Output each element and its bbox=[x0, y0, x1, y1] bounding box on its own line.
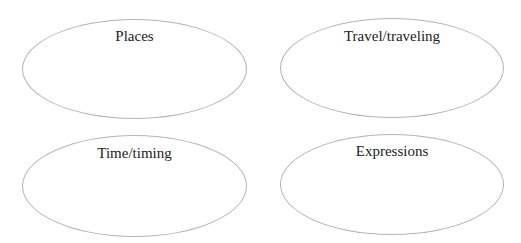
oval-label: Travel/traveling bbox=[281, 28, 503, 45]
oval-travel: Travel/traveling bbox=[280, 18, 504, 118]
oval-places: Places bbox=[22, 19, 247, 119]
oval-time: Time/timing bbox=[22, 135, 247, 237]
oval-label: Expressions bbox=[281, 143, 503, 160]
oval-label: Places bbox=[23, 28, 246, 45]
oval-expressions: Expressions bbox=[280, 134, 504, 235]
oval-label: Time/timing bbox=[23, 145, 246, 162]
